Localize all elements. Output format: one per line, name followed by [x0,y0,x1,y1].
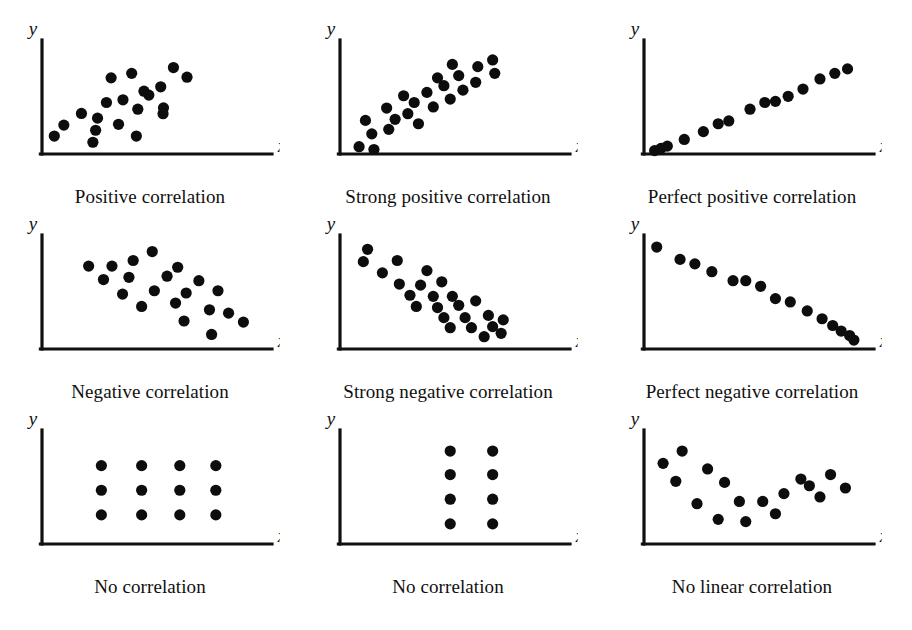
data-point [381,102,392,113]
plot-negative-correlation: yx [20,213,280,373]
data-point [487,54,498,65]
plot-perfect-negative-correlation: yx [622,213,882,373]
plot-no-linear-correlation: yx [622,408,882,568]
data-point [479,331,490,342]
y-axis-label: y [629,213,640,234]
data-point [459,312,470,323]
data-point [447,59,458,70]
data-point [392,255,403,266]
data-point [96,509,107,520]
data-point [662,141,673,152]
data-point [723,115,734,126]
correlation-scatterplot-figure: yx Positive correlation yx Strong positi… [0,0,912,630]
data-point [58,120,69,131]
data-point [174,509,185,520]
data-point [496,328,507,339]
data-point [487,494,498,505]
panel-no-correlation-vertical: yx No correlation [318,408,618,613]
data-point [128,255,139,266]
data-point [816,313,827,324]
data-point [174,460,185,471]
data-point [136,460,147,471]
data-point [657,458,668,469]
data-point [212,285,223,296]
data-point [136,301,147,312]
data-point [238,317,249,328]
x-axis-label: x [277,135,280,156]
data-point [778,488,789,499]
data-point [413,118,424,129]
y-axis-label: y [27,18,38,39]
data-point [498,314,509,325]
data-point [155,81,166,92]
data-point [698,126,709,137]
data-point [445,469,456,480]
data-point [132,104,143,115]
data-point [670,476,681,487]
data-point [783,91,794,102]
data-point [713,118,724,129]
panel-strong-negative-correlation: yx Strong negative correlation [318,213,618,418]
data-point [113,119,124,130]
data-point [770,96,781,107]
y-axis-label: y [27,213,38,234]
data-point [398,90,409,101]
data-point [814,73,825,84]
data-point [117,94,128,105]
data-point [362,244,373,255]
data-point [740,275,751,286]
data-point [428,101,439,112]
data-point [466,322,477,333]
data-point [96,485,107,496]
data-point [83,261,94,272]
x-axis-label: x [575,525,578,546]
data-point [691,498,702,509]
data-point [210,509,221,520]
data-point [377,267,388,278]
x-axis-label: x [879,330,882,351]
data-point [92,113,103,124]
data-point [713,514,724,525]
data-point [181,287,192,298]
caption-positive-correlation: Positive correlation [20,186,280,208]
y-axis-label: y [325,18,336,39]
caption-no-linear-correlation: No linear correlation [607,576,897,598]
data-point [409,97,420,108]
data-point [87,137,98,148]
data-point [472,61,483,72]
plot-perfect-positive-correlation: yx [622,18,882,178]
x-axis-label: x [277,330,280,351]
panel-perfect-positive-correlation: yx Perfect positive correlation [622,18,912,223]
caption-perfect-negative-correlation: Perfect negative correlation [607,381,897,403]
caption-no-correlation-vertical: No correlation [303,576,593,598]
data-point [445,322,456,333]
data-point [719,477,730,488]
caption-no-correlation-grid: No correlation [20,576,280,598]
data-point [702,463,713,474]
data-point [353,141,364,152]
data-point [740,516,751,527]
data-point [178,315,189,326]
data-point [445,494,456,505]
caption-strong-negative-correlation: Strong negative correlation [303,381,593,403]
y-axis-label: y [629,408,640,429]
data-point [829,68,840,79]
data-point [210,460,221,471]
data-point [358,256,369,267]
data-point [157,108,168,119]
plot-no-correlation-vertical: yx [318,408,578,568]
data-point [457,85,468,96]
plot-strong-positive-correlation: yx [318,18,578,178]
data-point [101,97,112,108]
data-point [143,89,154,100]
data-point [136,485,147,496]
data-point [193,275,204,286]
data-point [487,518,498,529]
data-point [366,128,377,139]
data-point [402,108,413,119]
data-point [383,124,394,135]
data-point [825,469,836,480]
data-point [172,262,183,273]
y-axis-label: y [325,213,336,234]
data-point [432,72,443,83]
